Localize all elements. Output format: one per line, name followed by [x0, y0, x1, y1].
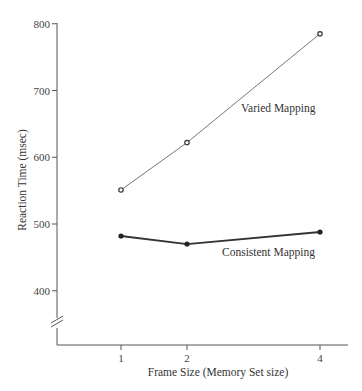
axes: [51, 23, 348, 345]
series-label-consistent-mapping: Consistent Mapping: [222, 246, 315, 259]
y-tick-label: 500: [34, 218, 51, 230]
filled-circle-marker: [118, 233, 123, 238]
series-group: [118, 32, 322, 247]
y-axis-ticks: 400500600700800: [34, 18, 58, 297]
y-axis-title: Reaction Time (msec): [16, 129, 29, 231]
y-tick-label: 600: [34, 151, 51, 163]
x-axis-ticks: 124: [118, 345, 323, 364]
open-circle-marker: [318, 32, 322, 36]
filled-circle-marker: [317, 229, 322, 234]
x-axis-title: Frame Size (Memory Set size): [148, 366, 289, 379]
y-tick-label: 400: [34, 285, 51, 297]
open-circle-marker: [185, 140, 189, 144]
x-tick-label: 1: [118, 352, 124, 364]
y-tick-label: 700: [34, 85, 51, 97]
x-tick-label: 4: [317, 352, 323, 364]
y-tick-label: 800: [34, 18, 51, 30]
x-tick-label: 2: [184, 352, 190, 364]
line-chart: 400500600700800 124 Reaction Time (msec)…: [0, 0, 362, 391]
series-consistent-mapping: [118, 229, 322, 246]
filled-circle-marker: [184, 241, 189, 246]
series-label-varied-mapping: Varied Mapping: [241, 102, 316, 115]
open-circle-marker: [119, 188, 123, 192]
